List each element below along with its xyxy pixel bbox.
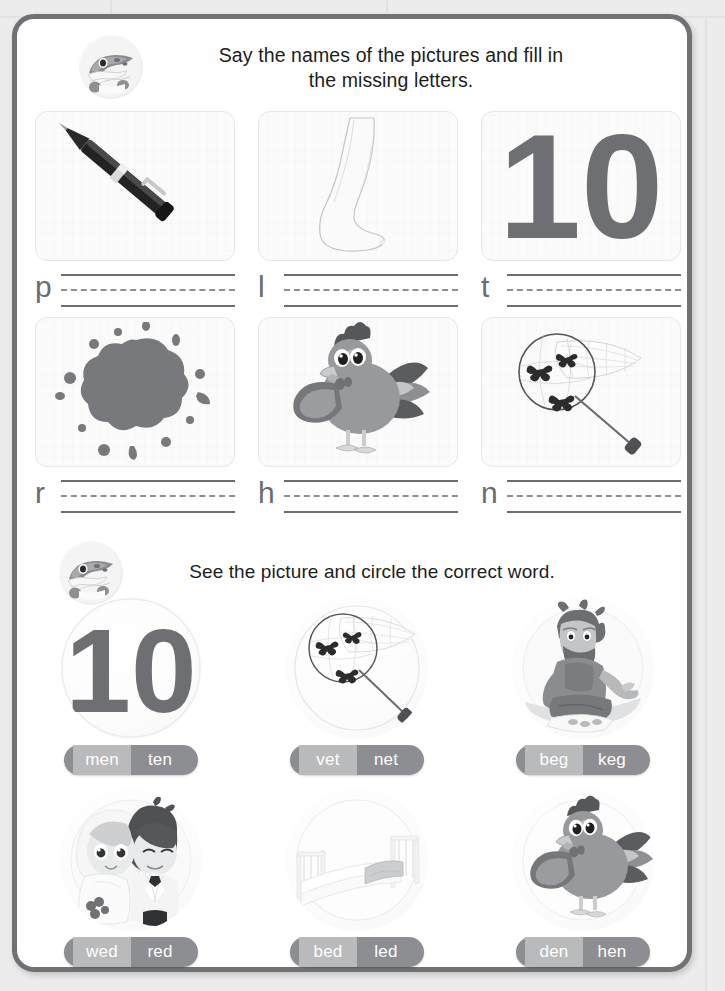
crocodile-mascot-icon [59,541,123,605]
word-choice-pill[interactable]: bed led [290,937,424,967]
svg-text:10: 10 [65,605,196,737]
picture-cell-pen: p [35,111,235,311]
picture-row: p [35,111,681,311]
handwriting-lines[interactable] [507,474,681,514]
letter-prompt: l [258,272,284,304]
line-top [507,480,681,482]
pen-icon [50,121,220,251]
line-bottom [61,305,235,307]
handwriting-lines[interactable] [61,268,235,308]
instruction-row-two: See the picture and circle the correct w… [59,541,639,605]
word-option-right[interactable]: red [131,937,189,967]
word-choice-pill[interactable]: wed red [64,937,198,967]
hen-icon [268,322,448,462]
circle-cell-bed: bed led [257,789,457,967]
instruction-text-one: Say the names of the pictures and fill i… [143,35,639,93]
letter-prompt: p [35,272,61,304]
line-middle-dashed [507,495,681,497]
circle-cell-wedding: wed red [31,789,231,967]
writing-line-group: p [35,265,235,311]
letter-prompt: t [481,272,507,304]
instruction-line-1: Say the names of the pictures and fill i… [219,44,563,66]
word-option-right[interactable]: hen [583,937,641,967]
worksheet-page: Say the names of the pictures and fill i… [12,14,692,972]
word-option-right[interactable]: ten [131,745,189,775]
word-option-left[interactable]: beg [525,745,583,775]
instruction-row-one: Say the names of the pictures and fill i… [79,35,639,99]
circle-cell-beggar: beg keg [483,597,683,775]
line-bottom [507,511,681,513]
line-bottom [61,511,235,513]
word-choice-pill[interactable]: den hen [516,937,650,967]
writing-line-group: l [258,265,458,311]
circle-word-row: 10 men ten [31,597,683,775]
ten-circle-icon: 10 [60,597,202,739]
leg-icon [298,116,418,256]
handwriting-lines[interactable] [507,268,681,308]
writing-line-group: t [481,265,681,311]
word-option-left[interactable]: bed [299,937,357,967]
word-option-left[interactable]: vet [299,745,357,775]
word-choice-pill[interactable]: beg keg [516,745,650,775]
writing-line-group: h [258,471,458,517]
picture-cell-red: r [35,317,235,517]
line-top [61,480,235,482]
picture-cell-net: n [481,317,681,517]
line-top [284,274,458,276]
picture-box [258,111,458,261]
handwriting-lines[interactable] [284,268,458,308]
circle-word-row: wed red [31,789,683,967]
letter-prompt: h [258,478,284,510]
word-option-right[interactable]: keg [583,745,641,775]
line-bottom [284,305,458,307]
picture-box [35,317,235,467]
line-bottom [507,305,681,307]
handwriting-lines[interactable] [284,474,458,514]
red-blot-icon [48,322,223,462]
line-middle-dashed [507,289,681,291]
line-middle-dashed [284,495,458,497]
circle-cell-hen: den hen [483,789,683,967]
line-middle-dashed [61,495,235,497]
line-middle-dashed [61,289,235,291]
word-option-right[interactable]: net [357,745,415,775]
net-icon [491,322,671,462]
word-option-right[interactable]: led [357,937,415,967]
svg-text:10: 10 [499,116,664,256]
word-option-left[interactable]: den [525,937,583,967]
ten-icon: 10 [491,116,671,256]
bed-circle-icon [286,789,428,931]
letter-prompt: n [481,478,507,510]
crocodile-mascot-icon [79,35,143,99]
writing-line-group: n [481,471,681,517]
circle-cell-net: vet net [257,597,457,775]
line-top [284,480,458,482]
instruction-line-2: the missing letters. [309,69,474,91]
circle-cell-ten: 10 men ten [31,597,231,775]
picture-box [35,111,235,261]
handwriting-lines[interactable] [61,474,235,514]
wedding-circle-icon [60,789,202,931]
line-top [61,274,235,276]
hen-circle-icon [512,789,654,931]
picture-cell-leg: l [258,111,458,311]
picture-cell-ten: 10 t [481,111,681,311]
writing-line-group: r [35,471,235,517]
instruction-text-two: See the picture and circle the correct w… [123,541,639,584]
word-choice-pill[interactable]: men ten [64,745,198,775]
letter-prompt: r [35,478,61,510]
circle-word-grid: 10 men ten [31,597,683,981]
word-option-left[interactable]: wed [73,937,131,967]
picture-letter-grid: p [35,111,681,523]
picture-box [258,317,458,467]
picture-row: r [35,317,681,517]
line-top [507,274,681,276]
picture-box: 10 [481,111,681,261]
background-seam [705,18,707,991]
line-middle-dashed [284,289,458,291]
picture-cell-hen: h [258,317,458,517]
word-option-left[interactable]: men [73,745,131,775]
word-choice-pill[interactable]: vet net [290,745,424,775]
net-circle-icon [286,597,428,739]
picture-box [481,317,681,467]
